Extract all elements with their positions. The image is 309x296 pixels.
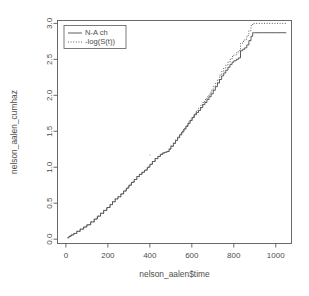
y-axis-title: nelson_aalen_cumhaz xyxy=(9,90,19,174)
y-tick-label-4: 2.0 xyxy=(45,89,54,101)
legend-label-na-ch: N-A ch xyxy=(85,28,108,37)
y-tick-label-5: 2.5 xyxy=(45,53,54,65)
r-plot-device: 02004006008001000 0.00.51.01.52.02.53.0 … xyxy=(0,0,309,296)
chart-canvas: 02004006008001000 0.00.51.01.52.02.53.0 … xyxy=(0,0,309,296)
x-axis-title: nelson_aalen$time xyxy=(139,269,210,279)
data-series-group xyxy=(68,23,287,237)
y-tick-label-6: 3.0 xyxy=(45,17,54,29)
x-tick-label-3: 600 xyxy=(185,251,199,260)
y-tick-label-3: 1.5 xyxy=(45,125,54,137)
x-tick-label-1: 200 xyxy=(101,251,115,260)
plot-frame-group xyxy=(58,21,292,244)
x-tick-label-0: 0 xyxy=(64,251,69,260)
series-line-na-ch xyxy=(68,33,287,238)
y-tick-label-1: 0.5 xyxy=(45,197,54,209)
y-axis-ticks xyxy=(54,23,58,239)
chart-legend[interactable]: N-A ch -log(S(t)) xyxy=(64,26,126,49)
y-axis-tick-labels: 0.00.51.01.52.02.53.0 xyxy=(45,17,54,244)
y-tick-label-0: 0.0 xyxy=(45,233,54,245)
legend-label-neg-log-s: -log(S(t)) xyxy=(85,37,115,46)
stray-speck xyxy=(149,154,150,155)
x-axis-ticks xyxy=(66,244,276,248)
x-tick-label-4: 800 xyxy=(227,251,241,260)
x-tick-label-5: 1000 xyxy=(267,251,285,260)
series-line-neg-log-s xyxy=(68,23,287,237)
plot-frame xyxy=(58,21,292,244)
x-tick-label-2: 400 xyxy=(143,251,157,260)
y-tick-label-2: 1.0 xyxy=(45,161,54,173)
x-axis-tick-labels: 02004006008001000 xyxy=(64,251,286,260)
